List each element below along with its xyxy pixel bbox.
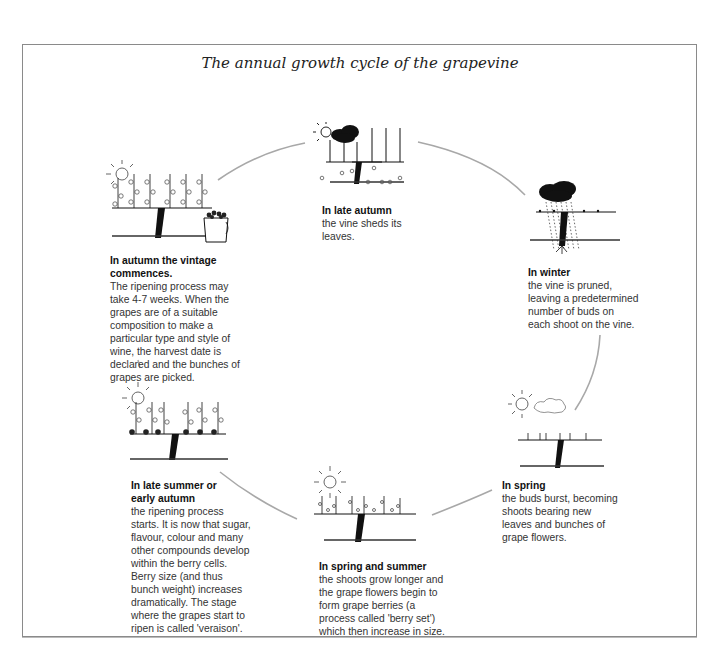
- sun-icon: [508, 390, 532, 418]
- sun-icon: [313, 122, 331, 141]
- caption-body: the buds burst, becoming shoots bearing …: [502, 492, 642, 544]
- cloud-icon: [534, 398, 566, 413]
- cloud-icon: [331, 125, 359, 143]
- caption-heading: In winter: [528, 266, 668, 279]
- caption-heading: In spring: [502, 479, 642, 492]
- spring-summer-illustration: [308, 462, 428, 547]
- caption-spring: In spring the buds burst, becoming shoot…: [502, 479, 642, 544]
- caption-late-summer: In late summer or early autumn the ripen…: [131, 479, 271, 635]
- caption-autumn: In autumn the vintage commences. The rip…: [110, 254, 260, 384]
- diagram-title: The annual growth cycle of the grapevine: [0, 54, 720, 72]
- flowering-vine-icon: [314, 496, 416, 542]
- spring-illustration: [498, 384, 608, 474]
- grape-bucket-icon: [204, 211, 228, 242]
- caption-late-autumn: In late autumn the vine sheds its leaves…: [322, 204, 442, 243]
- caption-spring-summer: In spring and summer the shoots grow lon…: [319, 560, 479, 638]
- stage-late-summer: [114, 372, 234, 462]
- caption-heading: In late autumn: [322, 204, 442, 217]
- caption-heading: In late summer or early autumn: [131, 479, 271, 505]
- caption-body: the vine is pruned, leaving a predetermi…: [528, 279, 668, 331]
- stage-autumn: [100, 160, 230, 250]
- sun-icon: [106, 160, 133, 184]
- late-autumn-illustration: [312, 120, 422, 190]
- caption-heading: In autumn the vintage commences.: [110, 254, 260, 280]
- ripening-vine-icon: [129, 402, 228, 460]
- caption-winter: In winter the vine is pruned, leaving a …: [528, 266, 668, 331]
- winter-illustration: [524, 180, 624, 260]
- stage-late-autumn: [312, 120, 422, 190]
- stage-spring: [498, 384, 608, 474]
- caption-body: the vine sheds its leaves.: [322, 217, 442, 243]
- caption-body: The ripening process may take 4-7 weeks.…: [110, 280, 260, 384]
- stage-spring-summer: [308, 462, 428, 547]
- caption-body: the ripening process starts. It is now t…: [131, 505, 271, 635]
- budding-vine-icon: [518, 433, 604, 468]
- full-vine-icon: [112, 174, 212, 238]
- sun-icon: [314, 466, 346, 498]
- late-summer-illustration: [114, 372, 234, 462]
- sun-icon: [122, 382, 149, 409]
- stage-winter: [524, 180, 624, 260]
- caption-body: the shoots grow longer and the grape flo…: [319, 573, 479, 638]
- caption-heading: In spring and summer: [319, 560, 479, 573]
- autumn-illustration: [100, 160, 230, 250]
- pruned-vine-icon: [530, 210, 620, 254]
